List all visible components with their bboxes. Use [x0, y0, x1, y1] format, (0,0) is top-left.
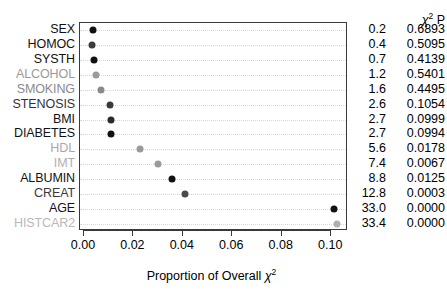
data-point	[93, 72, 100, 79]
chi-square-value: 12.8	[352, 186, 386, 199]
p-value: 0.0178	[391, 142, 445, 155]
y-axis-label: AGE	[0, 202, 75, 214]
p-value: 0.5401	[391, 68, 445, 81]
chi-square-value: 7.4	[352, 157, 386, 170]
plot-inner	[80, 23, 346, 229]
x-axis-tick	[281, 230, 282, 236]
x-axis: 0.000.020.040.060.080.10	[79, 230, 347, 270]
data-point	[331, 205, 338, 212]
statistics-row: 1.20.5401	[352, 68, 445, 81]
statistics-row: 0.70.4139	[352, 53, 445, 66]
x-axis-tick	[132, 230, 133, 236]
p-value: 0.1054	[391, 97, 445, 110]
chi-square-value: 2.6	[352, 97, 386, 110]
y-axis-label: ALBUMIN	[0, 172, 75, 184]
statistics-panel: χ2 P 0.20.68930.40.50950.70.41391.20.540…	[352, 22, 447, 230]
data-point	[98, 86, 105, 93]
y-axis-label: IMT	[0, 157, 75, 169]
chi-square-value: 1.6	[352, 82, 386, 95]
x-axis-tick-label: 0.04	[159, 238, 205, 252]
x-axis-tick-label: 0.10	[307, 238, 353, 252]
axis-title-text: Proportion of Overall	[147, 269, 265, 283]
statistics-row: 7.40.0067	[352, 157, 445, 170]
p-value: 0.5095	[391, 38, 445, 51]
statistics-row: 1.60.4495	[352, 82, 445, 95]
p-value: 0.4139	[391, 53, 445, 66]
statistics-row: 0.20.6893	[352, 23, 445, 36]
data-point	[107, 131, 114, 138]
x-axis-tick-label: 0.00	[60, 238, 106, 252]
y-axis-label: STENOSIS	[0, 98, 75, 110]
p-value: 0.4495	[391, 82, 445, 95]
x-axis-tick	[83, 230, 84, 236]
y-axis-label: DIABETES	[0, 127, 75, 139]
plot-area	[79, 22, 347, 230]
data-point	[182, 190, 189, 197]
statistics-row: 2.70.0994	[352, 127, 445, 140]
p-value: 0.6893	[391, 23, 445, 36]
data-point	[88, 42, 95, 49]
chi-square-value: 2.7	[352, 112, 386, 125]
chi-square-value: 5.6	[352, 142, 386, 155]
p-value: 0.0994	[391, 127, 445, 140]
gridline	[80, 120, 346, 121]
x-axis-tick-label: 0.06	[208, 238, 254, 252]
chi-square-value: 33.4	[352, 216, 386, 229]
y-axis-label: SYSTH	[0, 53, 75, 65]
gridline	[80, 105, 346, 106]
gridline	[80, 90, 346, 91]
gridline	[80, 224, 346, 225]
statistics-row: 0.40.5095	[352, 38, 445, 51]
statistics-row: 12.80.0003	[352, 186, 445, 199]
data-point	[334, 220, 341, 227]
gridline	[80, 75, 346, 76]
data-point	[155, 161, 162, 168]
p-value: 0.0999	[391, 112, 445, 125]
gridline	[80, 149, 346, 150]
p-value: 0.0125	[391, 172, 445, 185]
data-point	[137, 146, 144, 153]
statistics-row: 8.80.0125	[352, 172, 445, 185]
gridline	[80, 60, 346, 61]
statistics-row: 33.00.0000	[352, 201, 445, 214]
statistics-row: 33.40.0000	[352, 216, 445, 229]
gridline	[80, 209, 346, 210]
y-axis-label: CREAT	[0, 187, 75, 199]
x-axis-tick-label: 0.08	[258, 238, 304, 252]
data-point	[169, 176, 176, 183]
p-value: 0.0000	[391, 201, 445, 214]
data-point	[106, 101, 113, 108]
chi-square-value: 0.7	[352, 53, 386, 66]
chi-symbol: χ	[265, 269, 272, 283]
gridline	[80, 194, 346, 195]
chi-square-value: 1.2	[352, 68, 386, 81]
x-axis-line	[83, 230, 330, 231]
x-axis-title: Proportion of Overall χ2	[0, 265, 423, 283]
chart-root: SEXHOMOCSYSTHALCOHOLSMOKINGSTENOSISBMIDI…	[0, 0, 447, 303]
x-axis-tick-label: 0.02	[109, 238, 155, 252]
y-axis-label: HOMOC	[0, 38, 75, 50]
y-axis-label: HISTCAR2	[0, 217, 75, 229]
p-value: 0.0067	[391, 157, 445, 170]
y-axis-label: SMOKING	[0, 83, 75, 95]
y-axis-label: SEX	[0, 23, 75, 35]
gridline	[80, 164, 346, 165]
x-axis-tick	[182, 230, 183, 236]
data-point	[90, 57, 97, 64]
chi-square-value: 8.8	[352, 172, 386, 185]
p-value: 0.0003	[391, 186, 445, 199]
data-point	[107, 116, 114, 123]
x-axis-tick	[231, 230, 232, 236]
statistics-row: 2.60.1054	[352, 97, 445, 110]
gridline	[80, 134, 346, 135]
y-axis-label: ALCOHOL	[0, 68, 75, 80]
gridline	[80, 179, 346, 180]
y-axis-label: HDL	[0, 142, 75, 154]
chi-exponent: 2	[272, 267, 277, 277]
x-axis-tick	[330, 230, 331, 236]
chi-square-value: 0.2	[352, 23, 386, 36]
y-axis-label: BMI	[0, 113, 75, 125]
chi-square-value: 2.7	[352, 127, 386, 140]
data-point	[89, 27, 96, 34]
gridline	[80, 45, 346, 46]
